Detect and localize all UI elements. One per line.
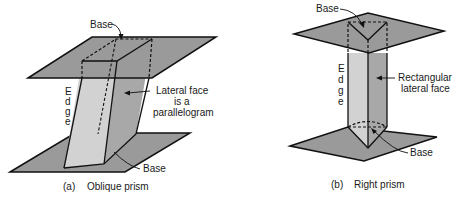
top-plane-b xyxy=(294,13,444,53)
caption-text-b: Right prism xyxy=(354,179,405,190)
label-base-bottom-b: Base xyxy=(410,147,433,158)
label-lateral-1-a: Lateral face xyxy=(156,85,209,96)
label-base-top-b: Base xyxy=(316,3,339,14)
prism-diagram: Base E d g e Lateral face is a parallelo… xyxy=(0,0,453,197)
label-lateral-2-b: lateral face xyxy=(401,83,450,94)
label-lateral-1-b: Rectangular xyxy=(398,72,453,83)
caption-letter-a: (a) xyxy=(63,181,75,192)
right-prism-figure: Base E d g e Rectangular lateral face Ba… xyxy=(290,3,453,190)
label-edge-d-b: d xyxy=(338,74,344,85)
label-base-bottom-a: Base xyxy=(143,163,166,174)
caption-text-a: Oblique prism xyxy=(87,181,149,192)
oblique-prism-figure: Base E d g e Lateral face is a parallelo… xyxy=(10,19,216,192)
label-edge-e2-a: e xyxy=(65,116,71,127)
label-lateral-3-a: parallelogram xyxy=(153,107,214,118)
label-base-top-a: Base xyxy=(90,19,113,30)
label-edge-e2-b: e xyxy=(338,96,344,107)
caption-letter-b: (b) xyxy=(331,179,343,190)
label-lateral-2-a: is a xyxy=(174,96,190,107)
label-edge-e-b: E xyxy=(338,63,345,74)
label-edge-g-b: g xyxy=(338,85,344,96)
